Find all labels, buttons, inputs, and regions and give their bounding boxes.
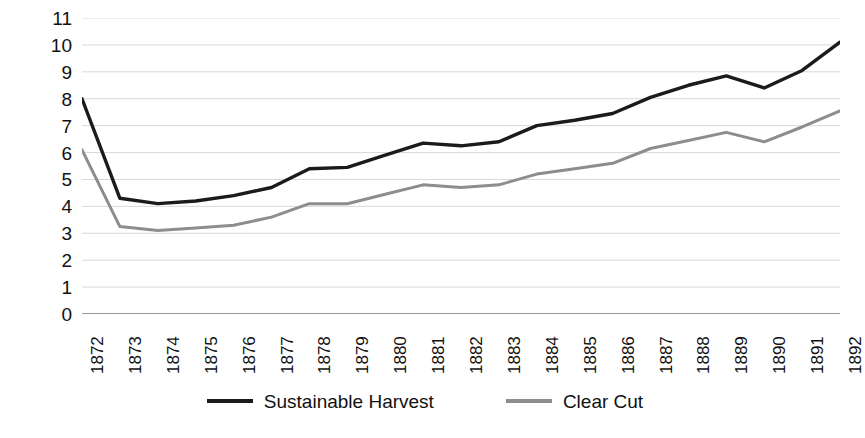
y-axis-tick-label: 10 [38, 36, 72, 55]
chart-legend: Sustainable Harvest Clear Cut [0, 384, 850, 418]
x-axis-tick-label: 1892 [847, 312, 864, 374]
series-lines [82, 42, 840, 230]
x-axis-tick-label: 1880 [392, 312, 409, 374]
gridlines [82, 18, 840, 314]
legend-label-sustainable-harvest: Sustainable Harvest [264, 392, 434, 411]
x-axis-tick-label: 1885 [582, 312, 599, 374]
x-axis-tick-label: 1891 [809, 312, 826, 374]
y-axis-tick-label: 6 [38, 144, 72, 163]
legend-item-sustainable-harvest: Sustainable Harvest [207, 392, 434, 411]
y-axis-tick-label: 11 [38, 9, 72, 28]
legend-line-icon-clear-cut [506, 399, 552, 403]
x-axis-tick-label: 1887 [658, 312, 675, 374]
y-axis-tick-label: 4 [38, 197, 72, 216]
x-axis-tick-label: 1883 [506, 312, 523, 374]
y-axis-tick-label: 1 [38, 278, 72, 297]
x-axis-tick-label: 1875 [203, 312, 220, 374]
x-axis-tick-label: 1878 [316, 312, 333, 374]
series-line-clear-cut [82, 111, 840, 231]
y-axis-tick-label: 3 [38, 224, 72, 243]
x-axis-tick-labels: 1872187318741875187618771878187918801881… [82, 316, 840, 378]
x-axis-tick-label: 1872 [89, 312, 106, 374]
legend-line-icon-sustainable-harvest [207, 399, 253, 403]
x-axis-tick-label: 1882 [468, 312, 485, 374]
legend-item-clear-cut: Clear Cut [506, 392, 643, 411]
y-axis-tick-label: 8 [38, 90, 72, 109]
x-axis-tick-label: 1890 [771, 312, 788, 374]
y-axis-tick-label: 0 [38, 305, 72, 324]
x-axis-tick-label: 1888 [695, 312, 712, 374]
x-axis-tick-label: 1876 [241, 312, 258, 374]
x-axis-tick-label: 1874 [165, 312, 182, 374]
x-axis-tick-label: 1889 [733, 312, 750, 374]
x-axis-tick-label: 1881 [430, 312, 447, 374]
y-axis-tick-labels: 11109876543210 [30, 0, 72, 330]
y-axis-tick-label: 5 [38, 170, 72, 189]
y-axis-tick-label: 9 [38, 63, 72, 82]
x-axis-tick-label: 1884 [544, 312, 561, 374]
x-axis-tick-label: 1873 [127, 312, 144, 374]
legend-label-clear-cut: Clear Cut [563, 392, 643, 411]
plot-area [82, 18, 840, 314]
y-axis-tick-label: 2 [38, 251, 72, 270]
x-axis-tick-label: 1877 [279, 312, 296, 374]
x-axis-tick-label: 1879 [354, 312, 371, 374]
x-axis-tick-label: 1886 [620, 312, 637, 374]
y-axis-tick-label: 7 [38, 117, 72, 136]
plot-svg [82, 18, 840, 314]
